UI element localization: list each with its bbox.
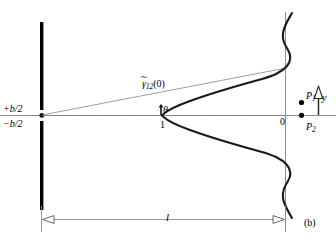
point-p2-label: P2: [306, 122, 316, 134]
point-p2-marker: [299, 113, 304, 118]
aperture-bar-lower: [40, 121, 43, 210]
angle-theta-label: θ: [163, 105, 168, 115]
aperture-bar-upper: [40, 22, 43, 110]
optics-figure: +b/2 −b/2 ~γ12(0) θ 1 0 P1 P2 y l (b): [0, 0, 336, 245]
peak-value-label: 1: [160, 120, 165, 130]
point-p1-marker: [299, 100, 304, 105]
figure-canvas: [0, 0, 336, 245]
gamma-argument: (0): [153, 78, 165, 89]
distance-label: l: [166, 212, 169, 223]
dimension-arrowhead-right: [273, 216, 285, 224]
coherence-function-label: ~γ12(0): [142, 79, 165, 91]
point-p1-label: P1: [306, 91, 316, 103]
transverse-axis-label: y: [322, 93, 326, 103]
p2-subscript: 2: [312, 126, 316, 134]
panel-label: (b): [304, 218, 316, 228]
tilde-accent-icon: ~: [141, 73, 147, 83]
aperture-half-width-upper-label: +b/2: [3, 104, 23, 114]
aperture-half-width-lower-label: −b/2: [3, 119, 23, 129]
p1-subscript: 1: [312, 95, 316, 103]
origin-label: 0: [280, 117, 285, 127]
dimension-arrowhead-left: [43, 216, 55, 224]
gamma-with-tilde: ~γ: [142, 79, 146, 89]
